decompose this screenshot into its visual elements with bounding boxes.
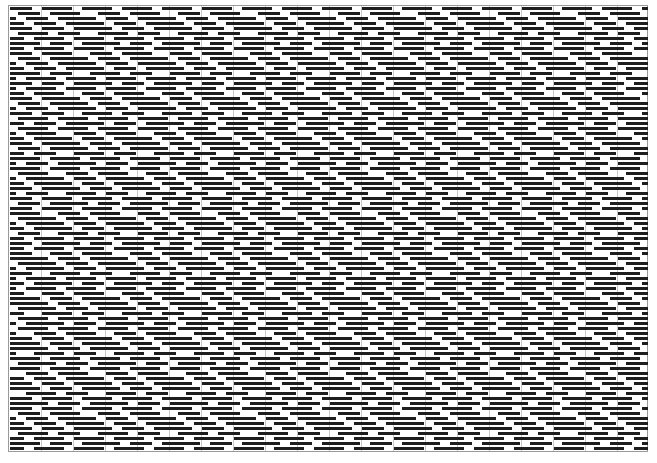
- filled-cell-run: [226, 67, 264, 70]
- filled-cell-run: [154, 27, 192, 30]
- filled-cell-run: [106, 87, 136, 90]
- filled-cell-run: [490, 142, 512, 145]
- filled-cell-run: [266, 277, 296, 280]
- filled-cell-run: [210, 412, 240, 415]
- filled-cell-run: [554, 132, 576, 135]
- filled-cell-run: [370, 272, 400, 275]
- filled-cell-run: [154, 132, 176, 135]
- filled-cell-run: [170, 272, 192, 275]
- filled-cell-run: [338, 327, 368, 330]
- filled-cell-run: [282, 397, 312, 400]
- filled-cell-run: [170, 347, 208, 350]
- filled-cell-run: [18, 32, 48, 35]
- filled-cell-run: [282, 242, 320, 245]
- filled-cell-run: [362, 242, 400, 245]
- filled-cell-run: [10, 42, 40, 45]
- filled-cell-run: [218, 117, 248, 120]
- filled-cell-run: [554, 267, 576, 270]
- filled-cell-run: [466, 77, 496, 80]
- filled-cell-run: [474, 247, 504, 250]
- filled-cell-run: [578, 12, 600, 15]
- filled-cell-run: [106, 287, 136, 290]
- filled-cell-run: [290, 252, 312, 255]
- filled-cell-run: [98, 432, 128, 435]
- filled-cell-run: [50, 42, 72, 45]
- filled-cell-run: [98, 127, 128, 130]
- filled-cell-run: [354, 447, 384, 450]
- filled-cell-run: [546, 87, 576, 90]
- filled-cell-run: [538, 327, 568, 330]
- filled-cell-run: [258, 147, 280, 150]
- filled-cell-run: [346, 87, 376, 90]
- filled-cell-run: [90, 402, 128, 405]
- filled-cell-run: [26, 372, 48, 375]
- filled-cell-run: [250, 142, 272, 145]
- filled-cell-run: [498, 432, 528, 435]
- filled-cell-run: [186, 322, 224, 325]
- filled-cell-run: [642, 342, 648, 345]
- filled-cell-run: [122, 407, 152, 410]
- filled-cell-run: [298, 302, 320, 305]
- filled-cell-run: [514, 137, 552, 140]
- filled-cell-run: [378, 317, 408, 320]
- filled-cell-run: [186, 372, 208, 375]
- filled-cell-run: [610, 167, 640, 170]
- filled-cell-run: [602, 382, 624, 385]
- filled-cell-run: [106, 392, 136, 395]
- filled-cell-run: [490, 367, 520, 370]
- filled-cell-run: [50, 442, 72, 445]
- filled-cell-run: [242, 442, 280, 445]
- filled-cell-run: [218, 347, 240, 350]
- filled-cell-run: [530, 442, 552, 445]
- filled-cell-run: [242, 92, 264, 95]
- filled-cell-run: [178, 217, 216, 220]
- filled-cell-run: [490, 257, 528, 260]
- filled-cell-run: [554, 427, 592, 430]
- filled-cell-run: [146, 217, 168, 220]
- filled-cell-run: [546, 67, 584, 70]
- filled-cell-run: [498, 412, 520, 415]
- filled-cell-run: [50, 12, 80, 15]
- filled-cell-run: [418, 362, 456, 365]
- filled-cell-run: [586, 132, 616, 135]
- filled-cell-run: [10, 252, 32, 255]
- filled-cell-run: [506, 267, 544, 270]
- filled-cell-run: [18, 217, 56, 220]
- filled-cell-run: [146, 362, 168, 365]
- filled-cell-run: [618, 62, 648, 65]
- filled-cell-run: [90, 272, 112, 275]
- filled-cell-run: [578, 117, 608, 120]
- filled-cell-run: [42, 407, 72, 410]
- filled-cell-run: [538, 32, 560, 35]
- filled-cell-run: [530, 357, 560, 360]
- filled-cell-run: [138, 402, 160, 405]
- filled-cell-run: [74, 222, 96, 225]
- filled-cell-run: [34, 137, 72, 140]
- filled-cell-run: [26, 107, 48, 110]
- filled-cell-run: [314, 447, 344, 450]
- filled-cell-run: [626, 422, 648, 425]
- filled-cell-run: [402, 282, 424, 285]
- filled-cell-run: [10, 137, 24, 140]
- filled-cell-run: [514, 122, 536, 125]
- filled-cell-run: [330, 142, 352, 145]
- filled-cell-run: [10, 17, 16, 20]
- filled-cell-run: [290, 202, 328, 205]
- filled-cell-run: [178, 57, 200, 60]
- filled-cell-run: [434, 37, 464, 40]
- filled-cell-run: [322, 137, 344, 140]
- filled-cell-run: [202, 242, 240, 245]
- filled-cell-run: [402, 442, 440, 445]
- filled-cell-run: [282, 27, 304, 30]
- filled-cell-run: [130, 167, 160, 170]
- filled-cell-run: [450, 252, 472, 255]
- filled-cell-run: [34, 37, 64, 40]
- filled-cell-run: [394, 352, 416, 355]
- filled-cell-run: [618, 347, 640, 350]
- filled-cell-run: [514, 352, 544, 355]
- filled-cell-run: [202, 312, 232, 315]
- filled-cell-run: [554, 237, 584, 240]
- filled-cell-run: [514, 67, 536, 70]
- filled-cell-run: [362, 52, 392, 55]
- filled-cell-run: [522, 242, 560, 245]
